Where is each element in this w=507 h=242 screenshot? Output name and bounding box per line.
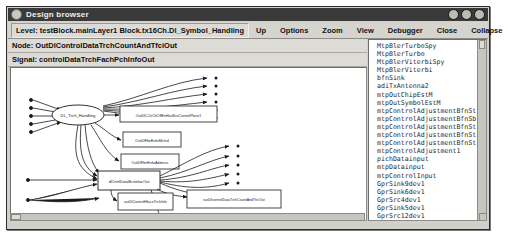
list-item-label: GprSrc12dev1	[377, 212, 425, 220]
node-row: Node: OutDlControlDataTrchCountAndTfciOu…	[8, 39, 367, 53]
object-list-scroll-thumb[interactable]	[479, 40, 485, 49]
graph-box-label: dlCntrlDataBcstnfacOut	[109, 179, 151, 184]
list-item[interactable]: MtpBlerTurbo	[372, 50, 477, 58]
list-item[interactable]: mtpControlInput	[372, 172, 477, 180]
list-item-label: mtpControlAdjustmentBfnSt	[377, 123, 476, 131]
list-item-label: mtpDatainput	[377, 163, 425, 171]
list-item[interactable]: mtpControlAdjustmentBfnSt	[372, 107, 477, 115]
scroll-corner	[479, 213, 487, 221]
menu-collapse[interactable]: Collapse	[464, 23, 507, 38]
list-item-label: GprSink9dev1	[377, 180, 425, 188]
graph-box-label: outDlControlHfaceTrchInfo	[124, 200, 166, 204]
list-item[interactable]: mtpOutChipEstM	[372, 91, 477, 99]
list-item-label: pichDatainput	[377, 155, 429, 163]
list-item[interactable]: mtpControlAdjustment1	[372, 147, 477, 155]
signal-label: Signal: controlDataTrchFachPchInfoOut	[8, 55, 155, 64]
menu-close[interactable]: Close	[430, 23, 464, 38]
list-item-label: adiTxAntenna2	[377, 82, 429, 90]
signal-row: Signal: controlDataTrchFachPchInfoOut	[8, 53, 367, 67]
list-item[interactable]: bfnSink	[372, 74, 477, 82]
window-titlebar[interactable]: Design browser	[8, 8, 488, 21]
ellipse-node[interactable]: DL_Trch_Handling	[52, 105, 104, 125]
list-item-label: mtpControlAdjustmentBfnSb	[377, 115, 476, 123]
list-item-label: GprSink5dev1	[377, 204, 425, 212]
menu-debugger[interactable]: Debugger	[381, 23, 430, 38]
list-item[interactable]: pichDatainput	[372, 155, 477, 163]
list-item[interactable]: GprSink5dev1	[372, 204, 477, 212]
node-label: Node: OutDlControlDataTrchCountAndTfciOu…	[8, 41, 177, 50]
list-item[interactable]: GprSrc4dev1	[372, 196, 477, 204]
list-item-label: mtpControlAdjustmentBfnSt	[377, 131, 476, 139]
box4-input-ports	[26, 178, 99, 201]
menu-view[interactable]: View	[350, 23, 381, 38]
graph-box[interactable]: dlCntrlDataBcstnfacOut	[98, 171, 160, 190]
list-item[interactable]: adiTxAntenna2	[372, 82, 477, 90]
list-item[interactable]: mtpOutSymbolEstM	[372, 99, 477, 107]
list-item[interactable]: mtpControlAdjustmentBfnSt	[372, 123, 477, 131]
graph-box-label: OutDlFbnEnfoAddress	[132, 161, 169, 165]
graph-box-label: OutDlFbnEnfoMcInd	[135, 139, 168, 143]
list-item[interactable]: GprSrc12dev1	[372, 212, 477, 220]
graph-box-label: outDlcontrolDataTrchCountAndTfciOut	[203, 198, 264, 202]
design-browser-window: Design browser Level: testBlock.mainLaye…	[6, 6, 490, 230]
object-list-scrollbar[interactable]	[477, 40, 486, 220]
list-item[interactable]: mtpControlAdjustmentBfnSb	[372, 115, 477, 123]
canvas-horizontal-scrollbar[interactable]	[10, 213, 365, 221]
list-item[interactable]: MtpBlerTurboSpy	[372, 42, 477, 50]
window-menu-icon[interactable]	[11, 9, 22, 20]
list-item-label: mtpOutChipEstM	[377, 91, 433, 99]
list-item-label: mtpControlAdjustmentBfnSt	[377, 107, 476, 115]
list-item[interactable]: mtpDatainput	[372, 163, 477, 171]
list-item-label: GprSink6dev1	[377, 188, 425, 196]
list-item-label: mtpControlAdjustmentBfnSt	[377, 139, 476, 147]
canvas-horizontal-scroll-thumb[interactable]	[11, 214, 21, 220]
menu-up[interactable]: Up	[249, 23, 273, 38]
graph-canvas[interactable]: DL_Trch_Handling OutDlCCtrChOffEnHacBceC…	[10, 67, 367, 221]
object-list[interactable]: MtpBlerTurboSpyMtpBlerTurboMtpBlerViterb…	[369, 40, 477, 220]
menu-zoom[interactable]: Zoom	[315, 23, 349, 38]
list-item-label: MtpBlerTurbo	[377, 50, 425, 58]
list-item[interactable]: GprSink9dev1	[372, 180, 477, 188]
list-item-label: mtpControlInput	[377, 172, 437, 180]
list-item[interactable]: MtpBlerViterbiSpy	[372, 58, 477, 66]
list-item-label: mtpControlAdjustment1	[377, 147, 460, 155]
graph-box[interactable]: OutDlFbnEnfoMcInd	[123, 132, 181, 147]
list-item[interactable]: GprSink6dev1	[372, 188, 477, 196]
window-title: Design browser	[26, 10, 89, 19]
list-item-label: MtpBlerViterbi	[377, 66, 433, 74]
graph-box[interactable]: outDlControlHfaceTrchInfo	[118, 193, 173, 210]
graph-box[interactable]: OutDlCCtrChOffEnHacBceControlPlane1	[120, 106, 217, 122]
ellipse-node-label: DL_Trch_Handling	[61, 113, 96, 118]
list-item-label: MtpBlerViterbiSpy	[377, 58, 445, 66]
list-item-label: mtpOutSymbolEstM	[377, 99, 441, 107]
list-item-label: MtpBlerTurboSpy	[377, 42, 437, 50]
graph-box-label: OutDlCCtrChOffEnHacBceControlPlane1	[136, 114, 202, 118]
box4-fanout	[160, 146, 229, 194]
menu-options[interactable]: Options	[273, 23, 315, 38]
level-path-label: Level: testBlock.mainLayer1 Block.tx16Ch…	[11, 23, 249, 38]
list-item[interactable]: mtpControlAdjustmentBfnSt	[372, 139, 477, 147]
close-button[interactable]	[474, 9, 485, 20]
box4-output-port-dots	[237, 145, 240, 194]
graph-box[interactable]: OutDlFbnEnfoAddress	[121, 154, 179, 169]
object-list-panel[interactable]: MtpBlerTurboSpyMtpBlerTurboMtpBlerViterb…	[368, 39, 487, 221]
menu-bar: Level: testBlock.mainLayer1 Block.tx16Ch…	[8, 22, 488, 39]
list-item-label: GprSrc4dev1	[377, 196, 421, 204]
window-controls	[448, 9, 488, 20]
list-item[interactable]: mtpControlAdjustmentBfnSt	[372, 131, 477, 139]
minimize-button[interactable]	[448, 9, 459, 20]
list-item[interactable]: MtpBlerViterbi	[372, 66, 477, 74]
maximize-button[interactable]	[461, 9, 472, 20]
graph-box[interactable]: outDlcontrolDataTrchCountAndTfciOut	[187, 190, 281, 208]
list-item-label: bfnSink	[377, 74, 405, 82]
